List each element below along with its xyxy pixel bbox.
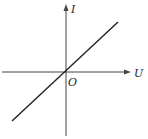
i-axis-label: I [70, 3, 76, 16]
u-axis-label: U [134, 67, 144, 80]
iu-graph: I U O [0, 0, 148, 139]
i-axis-arrow-icon [64, 4, 69, 11]
u-axis-arrow-icon [124, 70, 131, 75]
origin-label: O [68, 76, 77, 89]
